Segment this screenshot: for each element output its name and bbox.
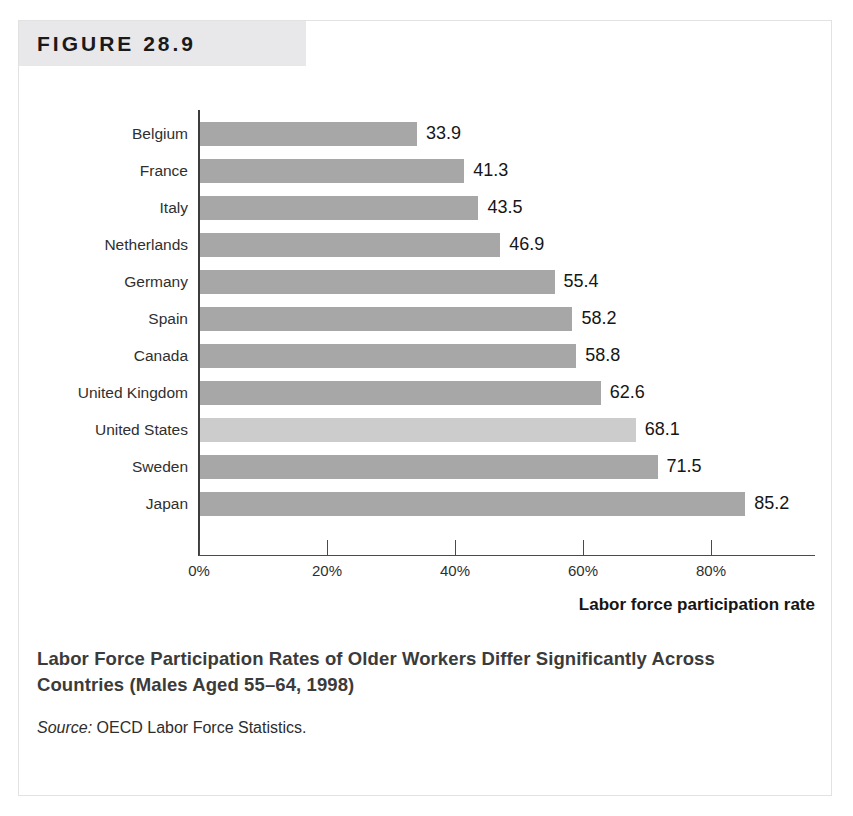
source-label: Source: [37,719,92,736]
x-tick-mark [327,540,328,555]
figure-header-band: FIGURE 28.9 [19,21,306,66]
figure-number-label: FIGURE 28.9 [37,32,196,56]
x-tick-mark [583,540,584,555]
x-tick-label: 40% [440,562,470,579]
x-tick-mark [199,540,200,555]
x-tick-label: 0% [188,562,210,579]
x-axis-ticks: 0%20%40%60%80% [19,66,831,636]
chart-plot-area: Belgium33.9France41.3Italy43.5Netherland… [19,66,831,636]
figure-container: FIGURE 28.9 Belgium33.9France41.3Italy43… [18,20,832,796]
x-axis-title: Labor force participation rate [198,595,815,615]
figure-caption-block: Labor Force Participation Rates of Older… [37,646,807,737]
source-text: OECD Labor Force Statistics. [97,719,307,736]
x-tick-mark [711,540,712,555]
x-tick-label: 80% [696,562,726,579]
x-tick-label: 60% [568,562,598,579]
figure-source-line: Source: OECD Labor Force Statistics. [37,719,807,737]
x-tick-mark [455,540,456,555]
figure-caption-title: Labor Force Participation Rates of Older… [37,646,807,698]
x-tick-label: 20% [312,562,342,579]
